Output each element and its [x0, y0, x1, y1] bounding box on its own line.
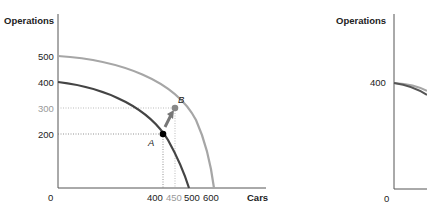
- y-tick-300: 300: [38, 103, 54, 114]
- shift-arrow: [165, 115, 171, 127]
- x-tick-450: 450: [166, 192, 182, 203]
- left-chart: Operations 500 400 300 200 0 400 450 500…: [4, 14, 268, 203]
- x-tick-400: 400: [147, 192, 163, 203]
- x-tick-600: 600: [203, 192, 219, 203]
- y-axis-label: Operations: [4, 15, 54, 26]
- y-tick-400: 400: [38, 77, 54, 88]
- point-b-label: B: [178, 94, 185, 105]
- origin-label: 0: [48, 192, 53, 203]
- x-axis-label: Cars: [247, 192, 268, 203]
- x-tick-500: 500: [184, 192, 200, 203]
- right-y-tick-400: 400: [370, 77, 386, 88]
- ppf-original-curve: [58, 82, 189, 188]
- y-tick-200: 200: [38, 129, 54, 140]
- y-tick-500: 500: [38, 51, 54, 62]
- ppf-chart-canvas: Operations 500 400 300 200 0 400 450 500…: [0, 0, 427, 216]
- ppf-expanded-curve: [58, 56, 214, 188]
- right-y-axis-label: Operations: [336, 15, 386, 26]
- right-chart: Operations 400 0: [336, 14, 427, 204]
- point-b: [172, 105, 179, 112]
- point-a: [160, 131, 167, 138]
- point-a-label: A: [147, 137, 154, 148]
- right-origin-label: 0: [384, 193, 389, 204]
